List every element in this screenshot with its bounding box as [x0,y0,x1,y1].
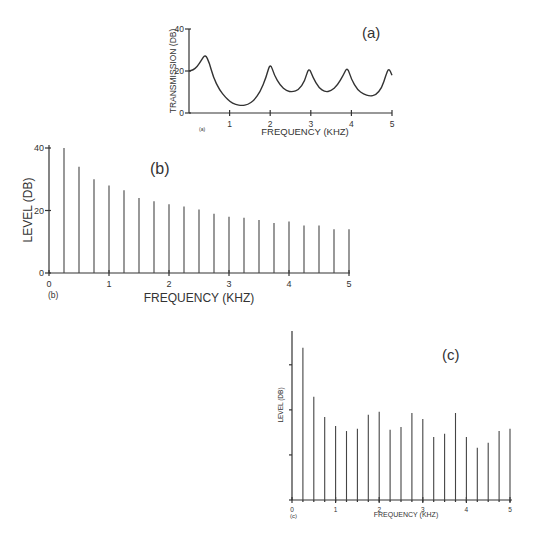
panel-b-panel-label: (b) [150,160,170,177]
x-tick-label: 0 [290,506,294,513]
panel-b-x-axis-label: FREQUENCY (KHZ) [144,291,254,305]
x-tick-label: 5 [346,279,351,289]
y-tick-label: 40 [34,143,44,153]
panel-b-y-axis-label: LEVEL (DB) [21,178,35,243]
x-tick-label: 3 [226,279,231,289]
panel-c-panel-label: (c) [442,346,460,363]
panel-c-corner-label: (c) [290,513,297,519]
panel-a-transmission-chart: 1234502040 TRANSMISSION (DB) FREQUENCY (… [168,24,395,137]
x-tick-label: 4 [465,506,469,513]
panel-b-bars [64,148,349,273]
y-tick-label: 0 [39,268,44,278]
x-tick-label: 2 [166,279,171,289]
panel-a-corner-label: (a) [199,126,205,132]
panel-a-transmission-curve [189,56,392,105]
x-tick-label: 4 [349,119,354,129]
y-tick-label: 0 [179,108,184,118]
x-tick-label: 5 [390,119,395,129]
panel-a-x-axis-label: FREQUENCY (KHZ) [261,126,348,137]
y-tick-label: 20 [34,206,44,216]
panel-c-y-axis-label: LEVEL (DB) [277,387,285,422]
x-tick-label: 5 [508,506,512,513]
x-tick-label: 1 [334,506,338,513]
x-tick-label: 1 [106,279,111,289]
x-tick-label: 1 [227,119,232,129]
panel-c-bars [303,348,510,500]
x-tick-label: 4 [286,279,291,289]
panel-a-y-axis-label: TRANSMISSION (DB) [168,29,178,114]
panel-a-panel-label: (a) [362,24,380,41]
panel-b-corner-label: (b) [48,290,59,300]
x-tick-label: 0 [46,279,51,289]
panel-b-level-chart: 01234502040 LEVEL (DB) FREQUENCY (KHZ) (… [21,143,352,305]
panel-c-x-axis-label: FREQUENCY (KHZ) [374,511,438,519]
panel-c-level-chart: 012345 LEVEL (DB) FREQUENCY (KHZ) (c) (c… [277,331,512,519]
figure-canvas: 1234502040 TRANSMISSION (DB) FREQUENCY (… [0,0,539,542]
